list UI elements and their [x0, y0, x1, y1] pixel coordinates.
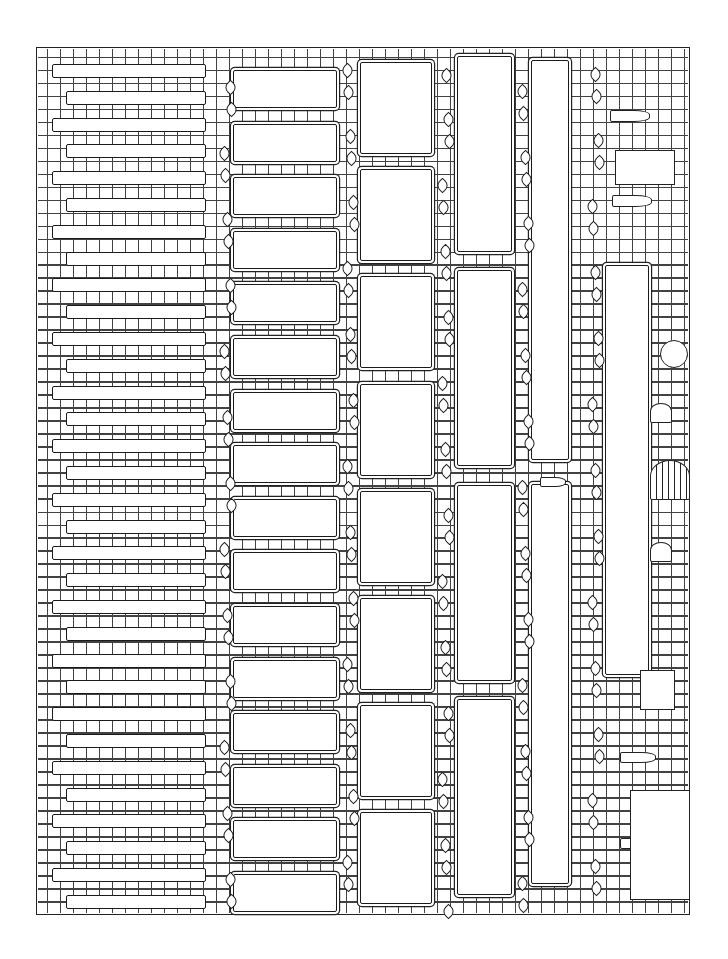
- generation-5-slot[interactable]: [233, 874, 337, 912]
- generation-6-slot[interactable]: [66, 734, 206, 748]
- plaque-top-1-icon: [610, 110, 650, 122]
- generation-6-slot[interactable]: [52, 654, 206, 668]
- generation-6-slot[interactable]: [52, 278, 206, 292]
- generation-6-slot[interactable]: [66, 788, 206, 802]
- generation-6-slot[interactable]: [66, 359, 206, 373]
- generation-5-slot[interactable]: [233, 124, 337, 162]
- generation-6-slot[interactable]: [52, 868, 206, 882]
- generation-6-slot[interactable]: [66, 627, 206, 641]
- generation-2-slot[interactable]: [531, 60, 569, 460]
- generation-6-slot[interactable]: [66, 305, 206, 319]
- generation-1-slot[interactable]: [605, 265, 649, 675]
- generation-5-slot[interactable]: [233, 606, 337, 644]
- generation-6-slot[interactable]: [52, 332, 206, 346]
- generation-4-slot[interactable]: [360, 812, 432, 904]
- generation-4-slot[interactable]: [360, 169, 432, 261]
- generation-5-slot[interactable]: [233, 820, 337, 858]
- generation-6-slot[interactable]: [66, 198, 206, 212]
- generation-6-slot[interactable]: [52, 118, 206, 132]
- generation-4-slot[interactable]: [360, 491, 432, 583]
- generation-5-slot[interactable]: [233, 177, 337, 215]
- generation-5-slot[interactable]: [233, 284, 337, 322]
- generation-6-slot[interactable]: [52, 386, 206, 400]
- generation-5-slot[interactable]: [233, 231, 337, 269]
- generation-6-slot[interactable]: [66, 466, 206, 480]
- cannon-wheel-icon: [660, 340, 688, 368]
- generation-6-slot[interactable]: [52, 600, 206, 614]
- generation-3-slot[interactable]: [457, 56, 512, 252]
- generation-6-slot[interactable]: [52, 546, 206, 560]
- generation-6-slot[interactable]: [52, 64, 206, 78]
- generation-5-slot[interactable]: [233, 713, 337, 751]
- generation-6-slot[interactable]: [52, 439, 206, 453]
- generation-6-slot[interactable]: [52, 493, 206, 507]
- generation-6-slot[interactable]: [66, 841, 206, 855]
- generation-2-slot[interactable]: [531, 484, 569, 884]
- generation-6-slot[interactable]: [66, 573, 206, 587]
- plaque-middle-icon: [540, 477, 566, 487]
- plaque-top-2-icon: [612, 195, 652, 207]
- generation-6-slot[interactable]: [66, 520, 206, 534]
- dragon-icon: [630, 790, 690, 900]
- arched-window-1-icon: [650, 403, 672, 423]
- generation-4-slot[interactable]: [360, 705, 432, 797]
- generation-6-slot[interactable]: [52, 225, 206, 239]
- generation-5-slot[interactable]: [233, 767, 337, 805]
- barred-window-icon: [650, 460, 690, 500]
- generation-5-slot[interactable]: [233, 552, 337, 590]
- generation-6-slot[interactable]: [66, 252, 206, 266]
- generation-6-slot[interactable]: [66, 895, 206, 909]
- generation-5-slot[interactable]: [233, 70, 337, 108]
- generation-6-slot[interactable]: [52, 171, 206, 185]
- jester-figure-icon: [615, 150, 675, 185]
- generation-6-slot[interactable]: [66, 412, 206, 426]
- generation-5-slot[interactable]: [233, 445, 337, 483]
- unicorn-creature-icon: [640, 670, 675, 710]
- generation-3-slot[interactable]: [457, 270, 512, 466]
- generation-6-slot[interactable]: [66, 680, 206, 694]
- generation-6-slot[interactable]: [52, 814, 206, 828]
- pedigree-chart: [0, 0, 728, 959]
- generation-4-slot[interactable]: [360, 384, 432, 476]
- generation-6-slot[interactable]: [66, 144, 206, 158]
- generation-6-slot[interactable]: [66, 91, 206, 105]
- generation-3-slot[interactable]: [457, 485, 512, 681]
- generation-3-slot[interactable]: [457, 699, 512, 895]
- generation-5-slot[interactable]: [233, 660, 337, 698]
- generation-4-slot[interactable]: [360, 62, 432, 154]
- arched-window-2-icon: [650, 542, 672, 562]
- generation-4-slot[interactable]: [360, 598, 432, 690]
- generation-5-slot[interactable]: [233, 499, 337, 537]
- generation-5-slot[interactable]: [233, 338, 337, 376]
- generation-6-slot[interactable]: [52, 707, 206, 721]
- plaque-bottom-1-icon: [620, 752, 656, 763]
- generation-4-slot[interactable]: [360, 276, 432, 368]
- generation-6-slot[interactable]: [52, 761, 206, 775]
- generation-5-slot[interactable]: [233, 392, 337, 430]
